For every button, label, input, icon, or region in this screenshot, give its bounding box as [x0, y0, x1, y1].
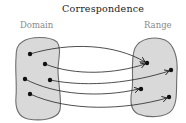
correspondence-diagram: Correspondence Domain Range: [0, 0, 186, 123]
domain-set-shape: [16, 38, 61, 120]
domain-point: [23, 77, 27, 81]
domain-point: [48, 78, 52, 82]
domain-point: [43, 62, 47, 66]
domain-point: [28, 52, 32, 56]
range-set-shape: [131, 38, 177, 117]
arrow-d2-r1: [45, 64, 145, 72]
range-point: [169, 68, 173, 72]
range-point: [167, 95, 171, 99]
range-point: [139, 87, 143, 91]
diagram-canvas: [0, 0, 186, 123]
domain-point: [28, 92, 32, 96]
range-point: [145, 61, 149, 65]
